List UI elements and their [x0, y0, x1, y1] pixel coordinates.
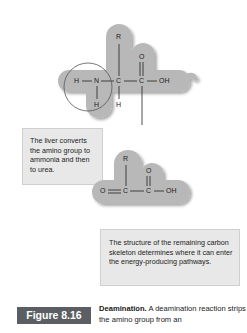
figure-label: Figure 8.16 — [26, 309, 81, 321]
atom-r: R — [116, 33, 121, 40]
skeleton-callout-text: The structure of the remaining carbon sk… — [109, 238, 232, 266]
figure-caption: Deamination. A deamination reaction stri… — [99, 303, 247, 325]
atom-n: N — [94, 77, 99, 84]
skeleton-callout: The structure of the remaining carbon sk… — [100, 229, 240, 286]
atom-h: H — [74, 77, 79, 84]
atom-c-carboxyl: C — [146, 187, 151, 194]
atom-c-carboxyl: C — [139, 77, 144, 84]
atom-o: O — [146, 167, 151, 174]
keto-acid-diagram: O C C OH R O — [0, 150, 247, 215]
atom-c-alpha: C — [116, 77, 121, 84]
atom-oh: OH — [166, 187, 177, 194]
atom-h-below-c: H — [116, 101, 121, 108]
atom-c-alpha: C — [123, 187, 128, 194]
amino-acid-diagram: H N C C OH R O H H — [0, 0, 247, 125]
atom-o-left: O — [100, 187, 105, 194]
atom-oh: OH — [159, 77, 170, 84]
atom-o: O — [139, 53, 144, 60]
figure-label-badge: Figure 8.16 — [17, 307, 91, 324]
amino-acid-blob — [0, 0, 247, 125]
caption-title: Deamination. — [99, 304, 147, 313]
atom-h-below-n: H — [94, 101, 99, 108]
atom-r: R — [123, 155, 128, 162]
